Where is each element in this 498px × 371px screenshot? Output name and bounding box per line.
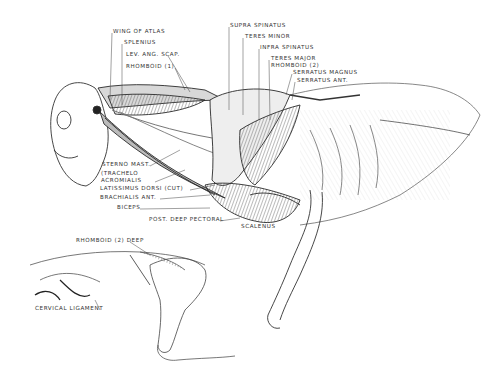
label-brachialis-ant: Brachialis Ant. [100, 195, 156, 201]
label-rhomboid-1: Rhomboid (1) [126, 64, 174, 70]
label-sterno-mast: Sterno Mast. [102, 162, 151, 168]
label-teres-major: Teres Major [271, 56, 316, 62]
label-biceps: Biceps [117, 205, 140, 211]
skull [51, 83, 108, 186]
anatomical-drawing [0, 0, 498, 371]
label-teres-minor: Teres Minor [245, 34, 290, 40]
label-splenius: Splenius [124, 40, 156, 46]
label-serratus-ant: Serratus Ant. [297, 78, 348, 84]
label-supra-spinatus: Supra Spinatus [230, 23, 286, 29]
torso [290, 83, 480, 225]
label-rhomboid-2-deep: Rhomboid (2) Deep [76, 238, 144, 244]
label-infra-spinatus: Infra Spinatus [260, 45, 314, 51]
shoulder-muscles [205, 89, 300, 223]
label-cervical-ligament: Cervical Ligament [35, 306, 103, 312]
label-latissimus-dorsi: Latissimus Dorsi (Cut) [100, 186, 183, 192]
label-wing-of-atlas: Wing of Atlas [113, 29, 165, 35]
label-rhomboid-2: Rhomboid (2) [271, 63, 319, 69]
label-trachelo: (Trachelo [101, 171, 138, 177]
label-post-deep-pectoral: Post. Deep Pectoral [149, 217, 224, 223]
label-serratus-magnus: Serratus Magnus [293, 70, 358, 76]
label-acromialis: Acromialis [101, 178, 142, 184]
label-scalenus: Scalenus [241, 224, 276, 230]
label-lev-ang-scap: Lev. Ang. Scap. [126, 52, 180, 58]
